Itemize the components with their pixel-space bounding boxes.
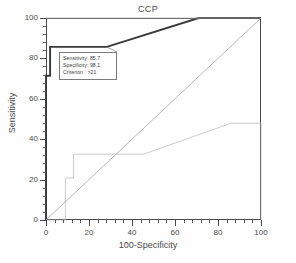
x-tick-minor [184,220,185,223]
x-tick-minor [209,220,210,223]
x-axis-title: 100-Specificity [0,240,296,250]
y-tick-minor [43,75,46,76]
y-tick-minor [43,212,46,213]
x-tick-minor [252,220,253,223]
y-tick-minor [43,131,46,132]
callout-specificity: Specificity: 98.1 [63,62,114,69]
y-tick-minor [43,50,46,51]
y-tick-minor [43,34,46,35]
x-tick-minor [149,220,150,223]
x-tick-mark [89,220,90,226]
roc-chart-figure: CCP 020406080100 020406080100 100-Specif… [0,0,296,263]
y-tick-mark [40,99,46,100]
x-tick-label: 100 [248,228,274,237]
x-tick-label: 80 [205,228,231,237]
y-tick-label: 80 [12,53,38,62]
y-tick-minor [43,155,46,156]
x-tick-minor [235,220,236,223]
series-reference-diagonal [46,18,261,220]
x-tick-label: 0 [33,228,59,237]
x-tick-label: 60 [162,228,188,237]
x-tick-minor [106,220,107,223]
x-tick-minor [55,220,56,223]
operating-point-callout: Sensitivity: 85.7 Specificity: 98.1 Crit… [59,52,117,80]
y-tick-minor [43,26,46,27]
x-tick-mark [175,220,176,226]
x-tick-minor [158,220,159,223]
y-tick-mark [40,18,46,19]
x-tick-minor [72,220,73,223]
y-tick-minor [43,115,46,116]
y-tick-minor [43,91,46,92]
x-tick-minor [201,220,202,223]
x-tick-minor [244,220,245,223]
y-tick-mark [40,180,46,181]
x-tick-label: 20 [76,228,102,237]
y-tick-minor [43,172,46,173]
y-tick-minor [43,188,46,189]
y-tick-minor [43,107,46,108]
plot-curves [46,18,261,220]
y-tick-minor [43,204,46,205]
y-tick-mark [40,139,46,140]
y-tick-minor [43,83,46,84]
y-tick-minor [43,42,46,43]
callout-criterion: Criterion : >21 [63,69,114,76]
x-tick-minor [63,220,64,223]
y-tick-mark [40,58,46,59]
y-tick-minor [43,147,46,148]
x-tick-minor [227,220,228,223]
y-tick-label: 20 [12,175,38,184]
x-tick-minor [192,220,193,223]
x-tick-label: 40 [119,228,145,237]
x-tick-mark [132,220,133,226]
x-tick-minor [141,220,142,223]
x-tick-mark [261,220,262,226]
y-tick-minor [43,163,46,164]
x-tick-minor [166,220,167,223]
y-tick-label: 100 [12,13,38,22]
x-tick-minor [98,220,99,223]
x-tick-mark [218,220,219,226]
x-tick-mark [46,220,47,226]
y-tick-label: 0 [12,215,38,224]
y-tick-minor [43,123,46,124]
x-tick-minor [115,220,116,223]
x-tick-minor [80,220,81,223]
y-tick-minor [43,66,46,67]
x-tick-minor [123,220,124,223]
callout-sensitivity: Sensitivity: 85.7 [63,55,114,62]
y-axis-title: Sensitivity [7,73,17,153]
y-tick-minor [43,196,46,197]
chart-title: CCP [0,4,296,14]
series-95-ci-lower-bound [46,123,261,220]
